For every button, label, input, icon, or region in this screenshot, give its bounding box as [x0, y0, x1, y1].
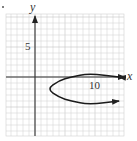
y-tick-label-5: 5 — [25, 40, 31, 52]
x-tick-label-10: 10 — [89, 79, 100, 91]
x-axis-label: x — [127, 69, 132, 84]
y-axis-label: y — [30, 0, 35, 15]
graph — [0, 0, 137, 141]
